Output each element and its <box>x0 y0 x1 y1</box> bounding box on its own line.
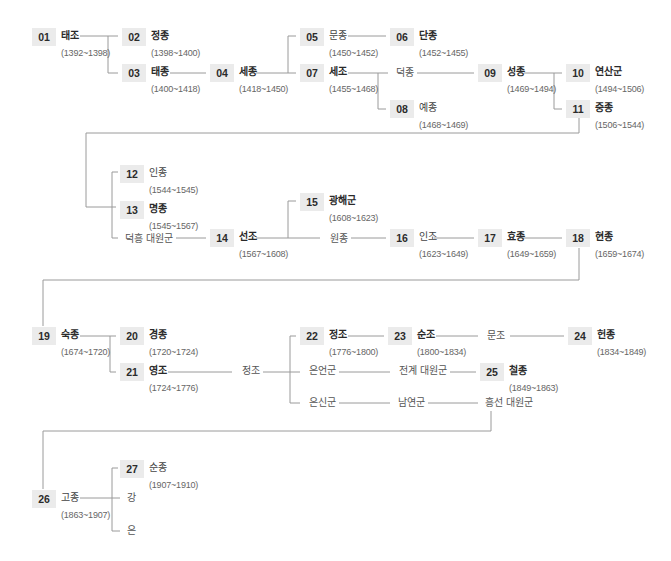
reign-number-badge: 03 <box>122 64 146 82</box>
reign-number-badge: 04 <box>210 64 234 82</box>
reign-dates: (1776~1800) <box>329 346 378 358</box>
reign-number-badge: 17 <box>478 229 502 247</box>
king-name: 명종 <box>149 202 167 216</box>
reign-dates: (1674~1720) <box>61 346 110 358</box>
reign-number-badge: 15 <box>300 193 324 211</box>
reign-dates: (1863~1907) <box>61 509 110 521</box>
reign-dates: (1455~1468) <box>329 83 378 95</box>
relative-label: 은신군 <box>306 396 339 410</box>
reign-dates: (1649~1659) <box>507 248 556 260</box>
reign-dates: (1800~1834) <box>417 346 466 358</box>
reign-number-badge: 07 <box>300 64 324 82</box>
king-name: 현종 <box>595 230 613 244</box>
reign-number-badge: 09 <box>478 64 502 82</box>
relative-label: 은 <box>124 524 139 538</box>
reign-number-badge: 11 <box>566 100 590 118</box>
reign-dates: (1392~1398) <box>61 47 110 59</box>
king-name: 순조 <box>417 328 435 342</box>
king-name: 광해군 <box>329 194 356 208</box>
reign-dates: (1418~1450) <box>239 83 288 95</box>
reign-number-badge: 26 <box>32 490 56 508</box>
reign-dates: (1623~1649) <box>419 248 468 260</box>
king-name: 단종 <box>419 29 437 43</box>
reign-number-badge: 23 <box>388 327 412 345</box>
king-name: 헌종 <box>597 328 615 342</box>
reign-dates: (1450~1452) <box>329 47 378 59</box>
relative-label: 원종 <box>327 232 351 246</box>
reign-dates: (1452~1455) <box>419 47 468 59</box>
reign-number-badge: 10 <box>566 64 590 82</box>
reign-number-badge: 18 <box>566 229 590 247</box>
relative-label: 은언군 <box>306 364 339 378</box>
reign-dates: (1659~1674) <box>595 248 644 260</box>
king-name: 세조 <box>329 65 347 79</box>
reign-dates: (1469~1494) <box>507 83 556 95</box>
reign-number-badge: 02 <box>122 28 146 46</box>
reign-number-badge: 22 <box>300 327 324 345</box>
relative-label: 정조 <box>239 364 263 378</box>
king-name: 연산군 <box>595 65 622 79</box>
king-name: 숙종 <box>61 328 79 342</box>
reign-number-badge: 19 <box>32 327 56 345</box>
reign-number-badge: 01 <box>32 28 56 46</box>
reign-dates: (1907~1910) <box>149 479 198 491</box>
king-name: 태조 <box>61 29 79 43</box>
reign-dates: (1400~1418) <box>151 83 200 95</box>
king-name: 철종 <box>509 364 527 378</box>
reign-number-badge: 14 <box>210 229 234 247</box>
relative-label: 흥선 대원군 <box>482 396 536 410</box>
king-name: 세종 <box>239 65 257 79</box>
reign-dates: (1834~1849) <box>597 346 646 358</box>
king-name: 인종 <box>149 166 167 180</box>
relative-label: 강 <box>124 491 139 505</box>
reign-dates: (1506~1544) <box>595 119 644 131</box>
reign-number-badge: 13 <box>120 201 144 219</box>
reign-dates: (1608~1623) <box>329 212 378 224</box>
reign-number-badge: 06 <box>390 28 414 46</box>
reign-dates: (1544~1545) <box>149 184 198 196</box>
royal-genealogy-diagram: 01태조(1392~1398)02정종(1398~1400)03태종(1400~… <box>0 0 671 561</box>
king-name: 문종 <box>329 29 347 43</box>
reign-dates: (1398~1400) <box>151 47 200 59</box>
reign-dates: (1720~1724) <box>149 346 198 358</box>
king-name: 선조 <box>239 230 257 244</box>
reign-dates: (1545~1567) <box>149 220 198 232</box>
king-name: 중종 <box>595 101 613 115</box>
reign-number-badge: 05 <box>300 28 324 46</box>
relative-label: 문조 <box>484 329 508 343</box>
reign-dates: (1849~1863) <box>509 382 558 394</box>
reign-number-badge: 08 <box>390 100 414 118</box>
reign-number-badge: 20 <box>120 327 144 345</box>
reign-dates: (1468~1469) <box>419 119 468 131</box>
reign-dates: (1724~1776) <box>149 382 198 394</box>
king-name: 고종 <box>61 491 79 505</box>
king-name: 태종 <box>151 65 169 79</box>
reign-number-badge: 24 <box>568 327 592 345</box>
reign-number-badge: 12 <box>120 165 144 183</box>
king-name: 예종 <box>419 101 437 115</box>
king-name: 영조 <box>149 364 167 378</box>
relative-label: 덕흥 대원군 <box>122 232 176 246</box>
king-name: 효종 <box>507 230 525 244</box>
reign-number-badge: 21 <box>120 363 144 381</box>
reign-number-badge: 16 <box>390 229 414 247</box>
king-name: 정조 <box>329 328 347 342</box>
relative-label: 전계 대원군 <box>396 364 450 378</box>
relative-label: 남연군 <box>395 396 428 410</box>
relative-label: 덕종 <box>393 66 417 80</box>
reign-dates: (1494~1506) <box>595 83 644 95</box>
reign-dates: (1567~1608) <box>239 248 288 260</box>
king-name: 성종 <box>507 65 525 79</box>
king-name: 순종 <box>149 461 167 475</box>
king-name: 경종 <box>149 328 167 342</box>
king-name: 정종 <box>151 29 169 43</box>
reign-number-badge: 27 <box>120 460 144 478</box>
reign-number-badge: 25 <box>480 363 504 381</box>
king-name: 인조 <box>419 230 437 244</box>
